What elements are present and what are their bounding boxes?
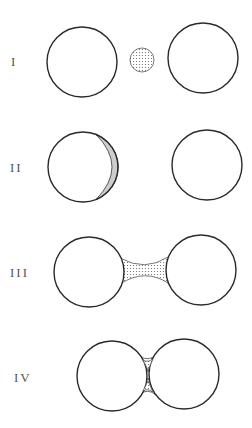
left-sphere — [48, 132, 118, 202]
stage-label-2: II — [10, 160, 23, 175]
particle-bridging-diagram: I II III IV — [0, 0, 252, 428]
stage-label-1: I — [11, 54, 17, 69]
stage-3: III — [10, 235, 236, 307]
right-sphere — [168, 23, 238, 93]
liquid-bridge — [120, 257, 168, 284]
right-sphere — [149, 339, 219, 409]
stage-label-4: IV — [14, 370, 32, 385]
right-sphere — [172, 130, 242, 200]
stage-4: IV — [14, 339, 219, 411]
left-sphere — [47, 27, 117, 97]
right-sphere — [166, 235, 236, 305]
left-sphere — [77, 341, 147, 411]
stage-label-3: III — [10, 265, 29, 280]
left-sphere — [54, 237, 124, 307]
crescent-layer — [96, 135, 118, 200]
stage-2: II — [10, 130, 242, 202]
stage-1: I — [11, 23, 238, 97]
particle — [130, 48, 154, 72]
